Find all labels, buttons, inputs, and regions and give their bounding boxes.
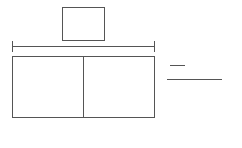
tape-bar-part-1 [13, 57, 83, 117]
top-answer-box [62, 7, 105, 41]
fraction-numerator-blank [170, 65, 185, 66]
tape-bar [12, 56, 155, 118]
bracket-left-tick [12, 41, 13, 52]
total-bracket-line [12, 46, 155, 47]
fraction-bar [167, 79, 222, 80]
bracket-right-tick [154, 41, 155, 52]
tape-bar-part-2 [83, 57, 154, 117]
